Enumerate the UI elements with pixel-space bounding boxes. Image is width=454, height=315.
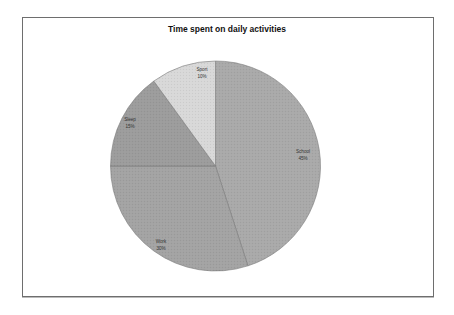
slice-label-work-pct: 30%	[156, 246, 165, 251]
slice-label-sport-pct: 10%	[197, 74, 206, 79]
slice-label-school-name: School	[296, 149, 310, 154]
pie-slices	[111, 61, 321, 271]
pie-chart: School 45% Work 30% Sleep 15% Sport 10%	[0, 0, 454, 315]
slice-label-sleep-pct: 15%	[125, 124, 134, 129]
slice-label-work-name: Work	[156, 239, 167, 244]
slice-label-school-pct: 45%	[298, 156, 307, 161]
slice-label-sport-name: Sport	[197, 67, 209, 72]
slice-label-sleep-name: Sleep	[124, 117, 136, 122]
